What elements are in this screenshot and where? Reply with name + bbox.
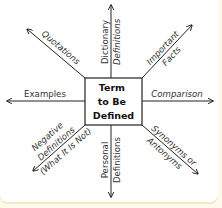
arrow-important-facts xyxy=(142,25,192,78)
label-comparison: Comparison xyxy=(151,89,202,99)
label-quotations: Quotations xyxy=(40,28,83,66)
label-negative-definitions: Negative Definitions (What It Is Not) xyxy=(22,109,93,177)
svg-text:Personal: Personal xyxy=(100,142,110,179)
concept-map: Term to Be Defined Dictionary Definition… xyxy=(0,0,222,208)
svg-text:Dictionary: Dictionary xyxy=(100,20,110,64)
arrow-synonyms-antonyms xyxy=(142,125,198,174)
label-examples: Examples xyxy=(24,89,66,99)
svg-text:Quotations: Quotations xyxy=(40,28,83,66)
svg-text:Definitions: Definitions xyxy=(112,18,122,65)
center-term-label: Term to Be Defined xyxy=(93,82,134,121)
svg-text:Definitions: Definitions xyxy=(112,136,122,183)
